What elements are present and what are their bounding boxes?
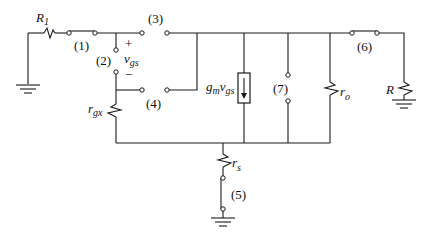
terminal-2[interactable]	[114, 48, 118, 74]
label-terminal-7: (7)	[273, 81, 288, 96]
switch-5[interactable]	[221, 176, 225, 211]
resistor-r1	[28, 28, 68, 38]
terminal-4[interactable]	[140, 88, 169, 92]
label-terminal-3: (3)	[148, 11, 163, 26]
ground-right	[392, 100, 416, 108]
label-terminal-2: (2)	[96, 53, 111, 68]
ground-left	[16, 33, 40, 93]
label-terminal-1: (1)	[74, 38, 89, 53]
label-terminal-4: (4)	[146, 96, 161, 111]
resistor-ro	[325, 33, 338, 143]
circuit-diagram: R1 (1) (2) + vgs − (3) (4) rgx	[0, 0, 429, 246]
resistor-r-load	[379, 33, 412, 100]
label-rgx: rgx	[88, 101, 103, 118]
label-r1: R1	[35, 10, 49, 27]
current-source-gm-vgs	[238, 33, 250, 143]
vgs-plus: +	[125, 36, 132, 51]
wire-terminal-4-to-top	[169, 33, 197, 90]
label-terminal-6: (6)	[357, 39, 372, 54]
switch-6[interactable]	[350, 31, 379, 35]
label-terminal-5: (5)	[231, 187, 246, 202]
label-vgs: vgs	[124, 51, 139, 68]
resistor-rs	[218, 143, 231, 176]
label-gm-vgs: gmvgs	[206, 79, 235, 96]
resistor-rgx	[108, 90, 121, 143]
label-r-load: R	[385, 82, 394, 97]
vgs-minus: −	[125, 67, 132, 82]
switch-1[interactable]	[67, 31, 97, 35]
terminal-3[interactable]	[140, 31, 169, 35]
ground-bottom	[211, 211, 235, 226]
label-ro: ro	[340, 84, 350, 102]
label-rs: rs	[232, 155, 241, 173]
